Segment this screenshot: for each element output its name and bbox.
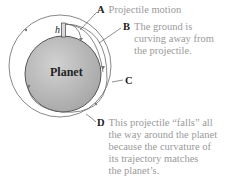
label-d-line: because the curvature of [109, 141, 211, 152]
label-a-key: A [97, 4, 105, 15]
launch-tower [62, 23, 66, 37]
label-d-line: This projectile “falls” all [109, 117, 213, 128]
label-d-line: its trajectory matches [109, 153, 199, 164]
leader-a [80, 12, 97, 30]
leader-c [112, 80, 123, 82]
label-b: BThe ground iscurving away fromthe proje… [123, 21, 214, 57]
label-b-line: curving away from [134, 33, 214, 44]
orbit-marker-left [25, 29, 27, 31]
height-label: h [55, 24, 60, 35]
orbit-marker-c [28, 85, 30, 87]
planet-label: Planet [50, 65, 83, 80]
label-b-line: the projectile. [134, 45, 192, 56]
label-d-key: D [97, 117, 105, 128]
label-b-line: The ground is [134, 21, 192, 32]
leader-b [99, 28, 121, 43]
leader-d [86, 114, 96, 122]
orbit-marker-bottom [95, 103, 97, 105]
label-b-key: B [123, 21, 130, 32]
label-a-text: Projectile motion [109, 4, 182, 16]
label-c: C [125, 75, 137, 87]
arrow-b [101, 66, 105, 70]
label-b-text: The ground iscurving away fromthe projec… [134, 21, 214, 57]
label-d: DThis projectile “falls” allthe way arou… [97, 117, 217, 177]
label-d-line: the way around the planet [109, 129, 217, 140]
label-c-key: C [125, 75, 133, 86]
label-d-line: the planet’s. [109, 165, 160, 176]
label-a: AProjectile motion [97, 4, 181, 16]
label-d-text: This projectile “falls” allthe way aroun… [109, 117, 217, 177]
